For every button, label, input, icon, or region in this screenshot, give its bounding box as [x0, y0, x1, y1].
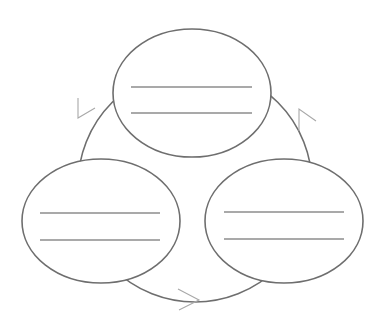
node-top-ellipse	[113, 29, 271, 157]
cycle-diagram	[0, 0, 379, 323]
arrow-left-icon	[78, 98, 95, 118]
node-bottom-right[interactable]	[205, 159, 363, 283]
node-bottom-left-ellipse	[22, 159, 180, 283]
node-top[interactable]	[113, 29, 271, 157]
node-bottom-right-ellipse	[205, 159, 363, 283]
arrow-right-icon	[299, 109, 316, 131]
arrow-bottom-icon	[178, 289, 199, 310]
node-bottom-left[interactable]	[22, 159, 180, 283]
